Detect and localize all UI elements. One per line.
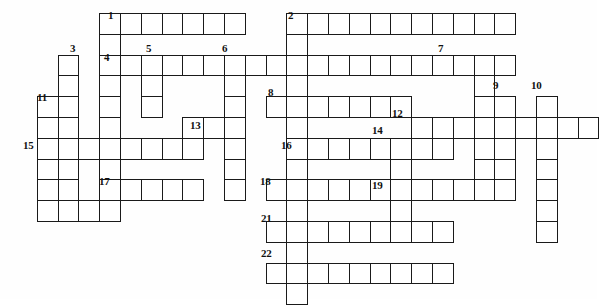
crossword-cell[interactable]	[99, 138, 121, 160]
crossword-cell[interactable]	[286, 34, 308, 56]
crossword-cell[interactable]	[141, 96, 163, 118]
crossword-cell[interactable]	[37, 200, 59, 222]
crossword-cell[interactable]	[390, 138, 412, 160]
crossword-cell[interactable]	[349, 55, 371, 77]
crossword-cell[interactable]	[141, 13, 163, 35]
crossword-cell[interactable]	[224, 75, 246, 97]
crossword-cell[interactable]	[474, 138, 496, 160]
crossword-cell[interactable]	[266, 96, 288, 118]
crossword-cell[interactable]	[307, 179, 329, 201]
crossword-cell[interactable]	[286, 242, 308, 264]
crossword-cell[interactable]	[286, 200, 308, 222]
crossword-cell[interactable]	[99, 75, 121, 97]
crossword-cell[interactable]	[162, 55, 184, 77]
crossword-cell[interactable]	[390, 13, 412, 35]
crossword-cell[interactable]	[307, 221, 329, 243]
crossword-cell[interactable]	[494, 159, 516, 181]
crossword-cell[interactable]	[453, 55, 475, 77]
crossword-cell[interactable]	[286, 159, 308, 181]
crossword-cell[interactable]	[494, 96, 516, 118]
crossword-cell[interactable]	[349, 221, 371, 243]
crossword-cell[interactable]	[266, 55, 288, 77]
crossword-cell[interactable]	[141, 75, 163, 97]
crossword-cell[interactable]	[286, 263, 308, 285]
crossword-cell[interactable]	[432, 179, 454, 201]
crossword-cell[interactable]	[370, 96, 392, 118]
crossword-cell[interactable]	[494, 117, 516, 139]
crossword-cell[interactable]	[286, 55, 308, 77]
crossword-cell[interactable]	[182, 138, 204, 160]
crossword-cell[interactable]	[286, 221, 308, 243]
crossword-cell[interactable]	[120, 13, 142, 35]
crossword-cell[interactable]	[515, 117, 537, 139]
crossword-cell[interactable]	[99, 34, 121, 56]
crossword-cell[interactable]	[328, 96, 350, 118]
crossword-cell[interactable]	[432, 263, 454, 285]
crossword-cell[interactable]	[494, 179, 516, 201]
crossword-cell[interactable]	[307, 96, 329, 118]
crossword-cell[interactable]	[474, 179, 496, 201]
crossword-cell[interactable]	[390, 55, 412, 77]
crossword-cell[interactable]	[370, 138, 392, 160]
crossword-cell[interactable]	[474, 96, 496, 118]
crossword-cell[interactable]	[349, 138, 371, 160]
crossword-cell[interactable]	[411, 13, 433, 35]
crossword-cell[interactable]	[536, 117, 558, 139]
crossword-cell[interactable]	[536, 96, 558, 118]
crossword-cell[interactable]	[328, 263, 350, 285]
crossword-cell[interactable]	[203, 117, 225, 139]
crossword-cell[interactable]	[58, 117, 80, 139]
crossword-cell[interactable]	[453, 13, 475, 35]
crossword-cell[interactable]	[120, 55, 142, 77]
crossword-cell[interactable]	[349, 263, 371, 285]
crossword-cell[interactable]	[370, 263, 392, 285]
crossword-cell[interactable]	[58, 179, 80, 201]
crossword-cell[interactable]	[58, 138, 80, 160]
crossword-cell[interactable]	[494, 138, 516, 160]
crossword-cell[interactable]	[224, 159, 246, 181]
crossword-cell[interactable]	[245, 55, 267, 77]
crossword-cell[interactable]	[370, 55, 392, 77]
crossword-cell[interactable]	[411, 221, 433, 243]
crossword-cell[interactable]	[432, 55, 454, 77]
crossword-cell[interactable]	[370, 13, 392, 35]
crossword-cell[interactable]	[390, 221, 412, 243]
crossword-cell[interactable]	[120, 138, 142, 160]
crossword-cell[interactable]	[182, 13, 204, 35]
crossword-cell[interactable]	[349, 96, 371, 118]
crossword-cell[interactable]	[432, 13, 454, 35]
crossword-cell[interactable]	[203, 13, 225, 35]
crossword-cell[interactable]	[78, 138, 100, 160]
crossword-cell[interactable]	[266, 221, 288, 243]
crossword-cell[interactable]	[224, 138, 246, 160]
crossword-cell[interactable]	[58, 159, 80, 181]
crossword-cell[interactable]	[162, 138, 184, 160]
crossword-cell[interactable]	[307, 138, 329, 160]
crossword-cell[interactable]	[328, 179, 350, 201]
crossword-cell[interactable]	[390, 179, 412, 201]
crossword-cell[interactable]	[37, 117, 59, 139]
crossword-cell[interactable]	[474, 55, 496, 77]
crossword-cell[interactable]	[286, 179, 308, 201]
crossword-cell[interactable]	[141, 55, 163, 77]
crossword-cell[interactable]	[474, 117, 496, 139]
crossword-cell[interactable]	[536, 159, 558, 181]
crossword-cell[interactable]	[58, 75, 80, 97]
crossword-cell[interactable]	[224, 179, 246, 201]
crossword-cell[interactable]	[453, 179, 475, 201]
crossword-cell[interactable]	[58, 55, 80, 77]
crossword-cell[interactable]	[390, 159, 412, 181]
crossword-cell[interactable]	[58, 200, 80, 222]
crossword-cell[interactable]	[494, 55, 516, 77]
crossword-cell[interactable]	[432, 221, 454, 243]
crossword-cell[interactable]	[307, 263, 329, 285]
crossword-cell[interactable]	[536, 200, 558, 222]
crossword-cell[interactable]	[349, 179, 371, 201]
crossword-cell[interactable]	[99, 200, 121, 222]
crossword-cell[interactable]	[474, 159, 496, 181]
crossword-cell[interactable]	[203, 55, 225, 77]
crossword-cell[interactable]	[390, 200, 412, 222]
crossword-cell[interactable]	[224, 13, 246, 35]
crossword-cell[interactable]	[411, 55, 433, 77]
crossword-cell[interactable]	[494, 13, 516, 35]
